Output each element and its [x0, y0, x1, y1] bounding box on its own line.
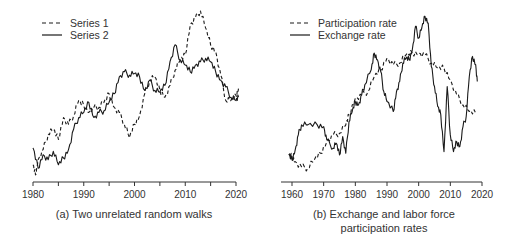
x-tick-label: 2010	[439, 189, 462, 200]
panel-b-x-ticks	[292, 182, 482, 186]
x-tick-label: 1990	[73, 189, 96, 200]
panel-b-legend: Participation rate Exchange rate	[290, 17, 397, 41]
panel-b-caption-line-2: participation rates	[341, 222, 428, 234]
x-tick-label: 2010	[174, 189, 197, 200]
x-tick-label: 1980	[344, 189, 367, 200]
x-tick-label: 2000	[123, 189, 146, 200]
series-line-series-1	[33, 11, 239, 175]
panel-a-caption: (a) Two unrelated random walks	[56, 208, 213, 220]
panel-a-plot-lines	[33, 11, 239, 175]
panel-a-legend: Series 1 Series 2	[42, 17, 109, 41]
x-tick-label: 1980	[22, 189, 45, 200]
x-tick-label: 1990	[376, 189, 399, 200]
x-tick-label: 1970	[313, 189, 336, 200]
x-tick-label: 1960	[281, 189, 304, 200]
panel-b: Participation rate Exchange rate 1960 19…	[281, 16, 494, 234]
panel-b-caption-line-1: (b) Exchange and labor force	[313, 208, 455, 220]
series-line-series-2	[33, 45, 239, 168]
figure: Series 1 Series 2 1980 1990 2000 2010 20…	[0, 0, 513, 246]
x-tick-label: 2020	[471, 189, 494, 200]
legend-label-participation-rate: Participation rate	[318, 17, 397, 29]
x-tick-label: 2020	[225, 189, 248, 200]
legend-label-exchange-rate: Exchange rate	[318, 29, 386, 41]
legend-label-series-1: Series 1	[70, 17, 109, 29]
legend-label-series-2: Series 2	[70, 29, 109, 41]
series-line-participation-rate	[289, 51, 476, 171]
panel-a-x-ticks	[33, 182, 236, 186]
x-tick-label: 2000	[408, 189, 431, 200]
panel-a: Series 1 Series 2 1980 1990 2000 2010 20…	[22, 11, 248, 220]
